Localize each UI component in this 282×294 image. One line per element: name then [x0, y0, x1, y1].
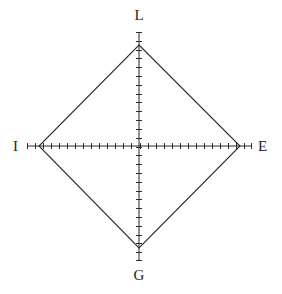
- chart-figure: L E G I: [0, 0, 282, 294]
- axis-label-bottom: G: [134, 268, 145, 283]
- axis-label-right: E: [258, 139, 267, 154]
- axis-label-top: L: [134, 8, 143, 23]
- chart-canvas: [0, 0, 282, 294]
- axis-label-left: I: [13, 139, 18, 154]
